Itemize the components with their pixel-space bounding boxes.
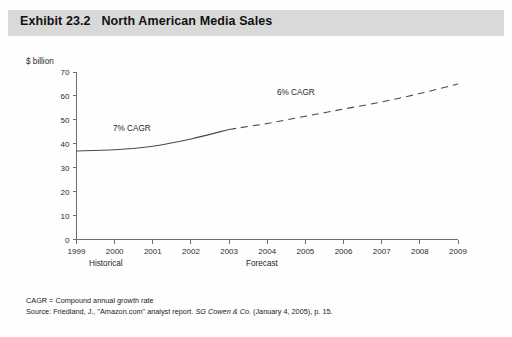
x-tick-label: 2005 <box>297 247 315 256</box>
x-tick-label: 2001 <box>144 247 162 256</box>
annotation-historical-cagr: 7% CAGR <box>113 124 151 133</box>
x-tick-label: 2008 <box>411 247 429 256</box>
x-tick-label: 2003 <box>220 247 238 256</box>
y-tick-label: 40 <box>61 140 70 149</box>
annotation-forecast-cagr: 6% CAGR <box>277 88 315 97</box>
footnotes: CAGR = Compound annual growth rate Sourc… <box>26 296 333 317</box>
y-tick-label: 0 <box>65 236 70 245</box>
y-tick-label: 20 <box>61 188 70 197</box>
x-tick-label: 2000 <box>106 247 124 256</box>
series-line-historical <box>77 129 230 151</box>
period-label-forecast: Forecast <box>246 259 278 268</box>
chart-area: 706050403020100 199920002001200220032004… <box>0 0 512 337</box>
series-group <box>77 84 459 151</box>
media-sales-line-chart: 706050403020100 199920002001200220032004… <box>0 0 512 337</box>
x-tick-label: 2007 <box>373 247 391 256</box>
x-tick-group: 1999200020012002200320042005200620072008… <box>68 240 468 256</box>
y-tick-label: 60 <box>61 92 70 101</box>
footnote-cagr-definition: CAGR = Compound annual growth rate <box>26 296 333 307</box>
y-tick-label: 50 <box>61 116 70 125</box>
x-tick-label: 2004 <box>258 247 276 256</box>
x-tick-label: 2009 <box>449 247 467 256</box>
x-tick-label: 1999 <box>68 247 86 256</box>
footnote-source-publisher: SG Cowen & Co. <box>195 307 251 316</box>
y-tick-group: 706050403020100 <box>61 68 77 245</box>
y-tick-label: 70 <box>61 68 70 77</box>
footnote-source-prefix: Source: Friedland, J., "Amazon.com" anal… <box>26 307 195 316</box>
footnote-source-suffix: (January 4, 2005), p. 15. <box>251 307 333 316</box>
x-tick-label: 2006 <box>335 247 353 256</box>
series-line-forecast <box>229 84 458 129</box>
period-label-historical: Historical <box>89 259 123 268</box>
y-tick-label: 10 <box>61 212 70 221</box>
y-tick-label: 30 <box>61 164 70 173</box>
axis-group <box>77 72 459 240</box>
x-tick-label: 2002 <box>182 247 200 256</box>
exhibit-page: Exhibit 23.2 North American Media Sales … <box>0 0 512 337</box>
footnote-source: Source: Friedland, J., "Amazon.com" anal… <box>26 307 333 318</box>
